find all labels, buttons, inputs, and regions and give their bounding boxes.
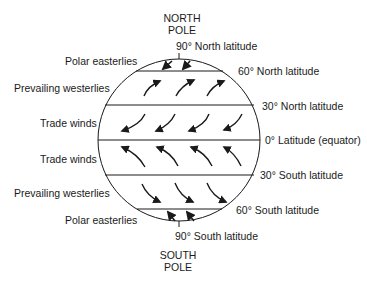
lat-60n-label: 60° North latitude [238, 65, 319, 77]
lat-90s-label: 90° South latitude [175, 230, 258, 242]
south-trade-winds-label: Trade winds [40, 153, 97, 165]
south-polar-easterlies-label: Polar easterlies [65, 214, 137, 226]
lat-30n-label: 30° North latitude [262, 100, 343, 112]
south-westerly-arrows [142, 183, 226, 202]
north-trade-winds-label: Trade winds [40, 117, 97, 129]
south-polar-easterly-arrows [168, 212, 194, 221]
lat-30s-label: 30° South latitude [260, 169, 343, 181]
equator-label: 0° Latitude (equator) [265, 134, 361, 146]
south-trade-wind-arrows [122, 147, 241, 167]
lat-90n-label: 90° North latitude [176, 40, 257, 52]
north-pole-label: NORTH POLE [160, 12, 204, 36]
south-pole-label: SOUTH POLE [156, 249, 200, 273]
lat-60s-label: 60° South latitude [236, 204, 319, 216]
north-polar-easterly-arrows [163, 61, 190, 69]
north-westerly-arrows [144, 80, 224, 96]
north-trade-wind-arrows [122, 114, 242, 131]
north-westerlies-label: Prevailing westerlies [14, 82, 110, 94]
south-westerlies-label: Prevailing westerlies [14, 187, 110, 199]
north-polar-easterlies-label: Polar easterlies [65, 55, 137, 67]
